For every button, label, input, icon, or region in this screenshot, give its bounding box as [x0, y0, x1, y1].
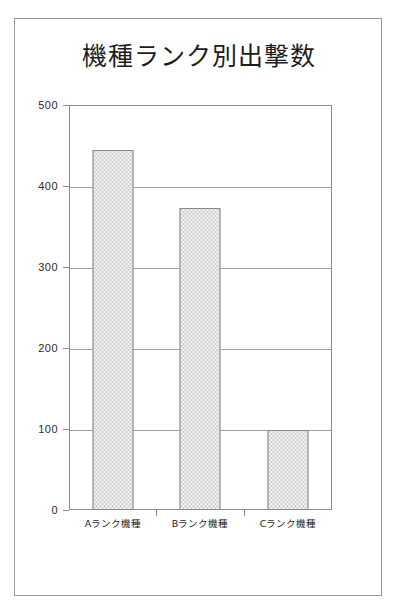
y-axis-label-500: 500: [14, 99, 58, 111]
y-axis-label-100: 100: [14, 423, 58, 435]
x-axis-label-c-rank: Cランク機種: [233, 516, 343, 530]
y-axis-label-300: 300: [14, 261, 58, 273]
y-axis-label-400: 400: [14, 180, 58, 192]
chart-plot-wrapper: 500 400 300 200 100 0 Aランク機種 Bランク機種 Cランク…: [0, 0, 398, 615]
y-axis-label-0: 0: [14, 504, 58, 516]
bar-slot-b: [157, 105, 245, 510]
bar-c-rank[interactable]: [267, 430, 308, 510]
bars-layer: [69, 105, 332, 510]
y-tick-mark-0: [63, 510, 69, 511]
bar-a-rank[interactable]: [92, 150, 133, 510]
bar-slot-c: [244, 105, 332, 510]
y-axis-label-200: 200: [14, 342, 58, 354]
chart-page: 機種ランク別出撃数 500 400 300 200 100 0: [0, 0, 398, 615]
bar-b-rank[interactable]: [180, 208, 221, 510]
bar-slot-a: [69, 105, 157, 510]
